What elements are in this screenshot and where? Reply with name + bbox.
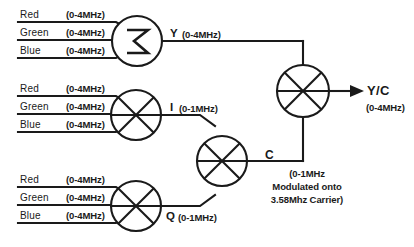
yc-output-tag: Y/C <box>367 84 390 97</box>
q-output-wire <box>161 195 215 206</box>
luma-red-band-label: (0-4MHz) <box>66 10 105 20</box>
chroma-note-line-3: 3.58Mhz Carrier) <box>252 195 362 205</box>
q-red-channel-label: Red <box>20 175 39 185</box>
i-output-wire <box>161 115 215 126</box>
i-red-band-label: (0-4MHz) <box>66 84 105 94</box>
i-green-channel-label: Green <box>20 102 49 112</box>
luma-summer-node <box>112 16 162 66</box>
yc-output-band: (0-4MHz) <box>366 103 405 113</box>
q-blue-channel-label: Blue <box>20 211 41 221</box>
i-blue-channel-label: Blue <box>20 120 41 130</box>
yc-output-arrowhead-icon <box>350 85 364 97</box>
luma-green-channel-label: Green <box>20 28 49 38</box>
chroma-note-line-1: (0-1MHz <box>252 169 362 179</box>
luma-blue-channel-label: Blue <box>20 46 41 56</box>
q-signal-tag: Q <box>166 211 175 223</box>
chroma-note-line-2: Modulated onto <box>252 182 362 192</box>
q-green-channel-label: Green <box>20 193 49 203</box>
i-green-band-label: (0-4MHz) <box>66 102 105 112</box>
i-signal-tag: I <box>170 102 173 114</box>
i-red-channel-label: Red <box>20 84 39 94</box>
q-green-band-label: (0-4MHz) <box>66 193 105 203</box>
q-red-band-label: (0-4MHz) <box>66 175 105 185</box>
i-signal-band: (0-1MHz) <box>179 104 218 114</box>
i-blue-band-label: (0-4MHz) <box>66 120 105 130</box>
luma-red-channel-label: Red <box>20 10 39 20</box>
q-signal-band: (0-1MHz) <box>178 213 217 223</box>
luma-green-band-label: (0-4MHz) <box>66 28 105 38</box>
luma-signal-band: (0-4MHz) <box>182 30 221 40</box>
chroma-signal-tag: C <box>265 149 274 161</box>
q-blue-band-label: (0-4MHz) <box>66 211 105 221</box>
ntsc-encoder-diagram: Red (0-4MHz) Green (0-4MHz) Blue (0-4MHz… <box>0 0 414 247</box>
luma-blue-band-label: (0-4MHz) <box>66 46 105 56</box>
luma-signal-tag: Y <box>170 28 178 40</box>
